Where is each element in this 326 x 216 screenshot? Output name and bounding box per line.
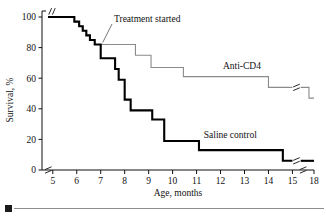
series-label-anti-cd4: Anti-CD4 [223,61,261,71]
curve-series-group: Anti-CD4Saline control [48,17,314,164]
x-axis: 5678910111213141518 [42,167,319,186]
axis-break-mark [293,158,300,164]
x-tick-label: 10 [168,176,178,186]
y-tick-label: 40 [27,104,37,114]
curve-anti-cd4-tail [301,87,314,98]
series-label-saline-control: Saline control [204,130,257,140]
x-tick-label: 6 [74,176,79,186]
x-tick-label: 15 [288,176,298,186]
annotation-treatment-started: Treatment started [114,14,181,24]
annotation-leader-line [103,24,112,43]
x-tick-label: 13 [240,176,250,186]
y-tick-label: 0 [31,165,36,175]
y-tick-label: 100 [22,12,37,22]
x-tick-label: 5 [50,176,55,186]
x-tick-label: 8 [122,176,127,186]
caption-bullet-marker [5,205,12,212]
curve-anti-cd4-main [48,17,292,87]
axis-break-mark [49,8,55,15]
survival-curve-chart: 020406080100 5678910111213141518 Anti-CD… [0,0,326,216]
x-tick-label: 12 [216,176,226,186]
y-axis-title: Survival, % [5,77,15,122]
y-tick-label: 60 [27,74,37,84]
y-tick-label: 80 [27,43,37,53]
survival-chart-figure: 020406080100 5678910111213141518 Anti-CD… [0,0,326,216]
x-tick-label: 14 [264,176,274,186]
y-tick-label: 20 [27,135,37,145]
x-tick-label: 11 [192,176,201,186]
axis-break-mark [293,84,300,90]
x-tick-label: 7 [98,176,103,186]
x-tick-label: 9 [146,176,151,186]
x-axis-title: Age, months [154,188,203,198]
annotation-group: Treatment started [103,14,181,43]
x-tick-label: 18 [309,176,319,186]
y-axis: 020406080100 [22,8,55,175]
